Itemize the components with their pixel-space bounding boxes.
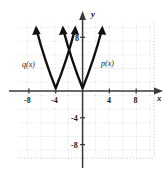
y-tick-label-pos8: 8 — [75, 34, 79, 43]
parabola-graph-figure: y x -8 -4 4 8 8 -4 -8 q(x) p(x) — [0, 0, 167, 172]
y-tick-label-neg4: -4 — [71, 114, 78, 123]
p-curve-label: p(x) — [100, 59, 114, 68]
x-axis-label: x — [156, 93, 162, 103]
x-tick-label-neg4: -4 — [51, 96, 58, 105]
q-curve-label: q(x) — [22, 60, 35, 69]
coordinate-plane: y x -8 -4 4 8 8 -4 -8 q(x) p(x) — [0, 0, 167, 172]
x-tick-label-pos8: 8 — [134, 96, 138, 105]
x-tick-label-neg8: -8 — [24, 96, 31, 105]
x-tick-label-pos4: 4 — [107, 96, 111, 105]
y-axis-label: y — [90, 9, 96, 19]
y-tick-label-neg8: -8 — [71, 141, 78, 150]
grid-lines — [18, 22, 154, 158]
